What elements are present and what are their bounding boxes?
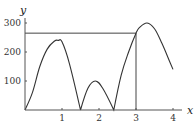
curve-line — [25, 23, 173, 110]
y-ticks: 100200300 — [4, 18, 27, 86]
x-tick-label: 3 — [133, 113, 139, 123]
chart: 1234 100200300 x y — [0, 0, 196, 129]
y-tick-label: 100 — [4, 76, 21, 86]
y-tick-label: 200 — [4, 47, 21, 57]
x-axis-label: x — [187, 104, 194, 117]
x-tick-label: 4 — [170, 113, 176, 123]
y-axis-label: y — [19, 4, 27, 17]
y-tick-label: 300 — [4, 18, 21, 28]
x-tick-label: 2 — [96, 113, 102, 123]
plot-area — [25, 23, 173, 110]
x-tick-label: 1 — [59, 113, 65, 123]
axes — [25, 18, 182, 110]
